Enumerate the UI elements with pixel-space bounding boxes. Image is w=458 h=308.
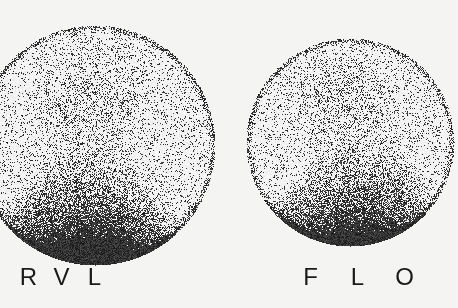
label-f: F	[287, 263, 334, 293]
label-v: V	[45, 263, 78, 293]
label-l2: L	[334, 263, 381, 293]
scintigraphy-image	[0, 0, 458, 308]
right-panel-labels: F L O	[287, 263, 428, 293]
label-r: R	[12, 263, 45, 293]
label-o: O	[381, 263, 428, 293]
left-panel-labels: R V L	[12, 263, 111, 293]
label-l: L	[78, 263, 111, 293]
